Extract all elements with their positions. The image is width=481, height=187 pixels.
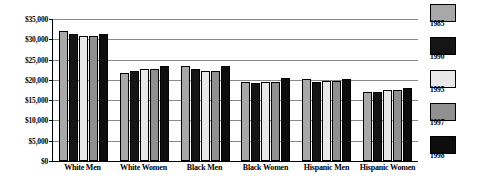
bar[interactable] xyxy=(342,79,351,161)
legend-label: 1990 xyxy=(430,52,444,61)
x-tick-label: White Women xyxy=(113,163,174,172)
bar[interactable] xyxy=(332,81,341,161)
bar[interactable] xyxy=(312,82,321,161)
bar[interactable] xyxy=(281,78,290,161)
bar-group xyxy=(235,19,296,161)
x-tick-label: Black Women xyxy=(235,163,296,172)
bar-group xyxy=(296,19,357,161)
y-tick-label: $15,000 xyxy=(25,96,48,105)
legend-item[interactable]: 1998 xyxy=(428,136,478,169)
bar[interactable] xyxy=(201,71,210,161)
bar[interactable] xyxy=(79,36,88,161)
bar[interactable] xyxy=(221,66,230,161)
bar[interactable] xyxy=(181,66,190,161)
y-axis: $35,000$30,000$25,000$20,000$15,000$10,0… xyxy=(0,19,50,161)
bar[interactable] xyxy=(383,90,392,161)
bar-group xyxy=(357,19,418,161)
x-axis: White MenWhite WomenBlack MenBlack Women… xyxy=(52,163,418,172)
x-tick-label: Black Men xyxy=(174,163,235,172)
bar-group xyxy=(175,19,236,161)
y-tick-label: $25,000 xyxy=(25,55,48,64)
legend-label: 1998 xyxy=(430,151,444,160)
bar-chart: $35,000$30,000$25,000$20,000$15,000$10,0… xyxy=(0,0,481,187)
bar[interactable] xyxy=(393,90,402,161)
y-tick-label: $35,000 xyxy=(25,15,48,24)
y-tick-label: $20,000 xyxy=(25,75,48,84)
legend-label: 1997 xyxy=(430,118,444,127)
bar[interactable] xyxy=(150,69,159,161)
legend: 19851990199519971998 xyxy=(428,4,478,169)
bar-groups xyxy=(53,19,418,161)
legend-item[interactable]: 1985 xyxy=(428,4,478,37)
y-tick-label: $5,000 xyxy=(29,136,48,145)
bar[interactable] xyxy=(271,82,280,161)
legend-item[interactable]: 1997 xyxy=(428,103,478,136)
bar[interactable] xyxy=(69,34,78,161)
bar[interactable] xyxy=(120,73,129,161)
bar[interactable] xyxy=(322,81,331,161)
legend-label: 1985 xyxy=(430,19,444,28)
bar[interactable] xyxy=(241,82,250,161)
legend-item[interactable]: 1990 xyxy=(428,37,478,70)
x-tick-label: White Men xyxy=(52,163,113,172)
bar[interactable] xyxy=(261,82,270,161)
y-tick-label: $10,000 xyxy=(25,116,48,125)
bar[interactable] xyxy=(211,71,220,161)
bar[interactable] xyxy=(373,92,382,161)
bar[interactable] xyxy=(251,83,260,161)
bar-group xyxy=(114,19,175,161)
bar[interactable] xyxy=(302,79,311,161)
y-tick-label: $30,000 xyxy=(25,35,48,44)
bar-group xyxy=(53,19,114,161)
plot-area xyxy=(52,19,418,162)
bar[interactable] xyxy=(363,92,372,161)
x-tick-label: Hispanic Men xyxy=(296,163,357,172)
bar[interactable] xyxy=(191,69,200,161)
bar[interactable] xyxy=(130,71,139,161)
y-tickmark xyxy=(49,161,53,162)
y-tick-label: $0 xyxy=(41,157,48,166)
plot-wrapper: $35,000$30,000$25,000$20,000$15,000$10,0… xyxy=(0,0,424,187)
bar[interactable] xyxy=(160,66,169,161)
bar[interactable] xyxy=(403,88,412,161)
x-tick-label: Hispanic Women xyxy=(357,163,418,172)
bar[interactable] xyxy=(99,34,108,161)
bar[interactable] xyxy=(89,36,98,161)
bar[interactable] xyxy=(59,31,68,161)
legend-item[interactable]: 1995 xyxy=(428,70,478,103)
bar[interactable] xyxy=(140,69,149,161)
legend-label: 1995 xyxy=(430,85,444,94)
